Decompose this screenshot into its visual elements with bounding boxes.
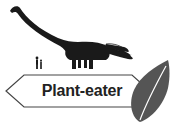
leaf-icon [126,58,172,124]
diet-label: Plant-eater [32,79,132,103]
human-icon [34,56,44,70]
